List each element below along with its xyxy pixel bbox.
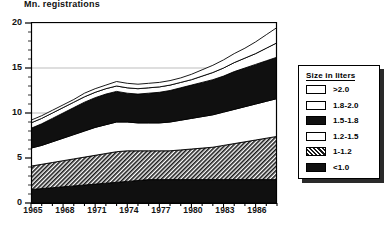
area-bands: [31, 28, 277, 204]
legend-swatch-white: [306, 132, 326, 141]
legend-label: >2.0: [333, 85, 349, 94]
x-tick-label-1968: 1968: [48, 205, 82, 215]
legend-item[interactable]: 1.5-1.8: [306, 115, 376, 127]
chart-figure: Mn. registrations: [0, 0, 387, 251]
y-tick-label-5: 5: [0, 152, 22, 162]
plot-area: 20 15 10 5 0 1965 1968 1971 1974 1977 19…: [0, 0, 290, 230]
legend-swatch-white: [306, 101, 326, 110]
x-tick-label-1980: 1980: [176, 205, 210, 215]
legend-label: 1-1.2: [333, 147, 352, 156]
legend-swatch-hatch: [306, 147, 326, 156]
y-tick-label-20: 20: [0, 17, 22, 27]
legend-label: 1.2-1.5: [333, 132, 359, 141]
legend-swatch-white: [306, 85, 326, 94]
legend-item[interactable]: 1.8-2.0: [306, 100, 376, 112]
legend-swatch-black: [306, 163, 326, 172]
x-tick-label-1983: 1983: [208, 205, 242, 215]
x-tick-label-1965: 1965: [16, 205, 50, 215]
legend-label: 1.5-1.8: [333, 116, 359, 125]
legend-item[interactable]: 1-1.2: [306, 146, 376, 158]
x-tick-label-1986: 1986: [240, 205, 274, 215]
x-tick-label-1974: 1974: [112, 205, 146, 215]
legend-label: 1.8-2.0: [333, 101, 359, 110]
legend-item[interactable]: 1.2-1.5: [306, 131, 376, 143]
y-tick-label-15: 15: [0, 62, 22, 72]
legend-label: <1.0: [333, 163, 349, 172]
legend-swatch-black: [306, 116, 326, 125]
x-tick-label-1977: 1977: [144, 205, 178, 215]
legend-title: Size in liters: [306, 71, 355, 81]
legend-item[interactable]: <1.0: [306, 162, 376, 174]
legend-item[interactable]: >2.0: [306, 84, 376, 96]
stacked-area-plot: [0, 0, 290, 230]
y-tick-label-10: 10: [0, 107, 22, 117]
chart-legend: Size in liters >2.01.8-2.01.5-1.81.2-1.5…: [298, 65, 380, 179]
x-tick-label-1971: 1971: [80, 205, 114, 215]
